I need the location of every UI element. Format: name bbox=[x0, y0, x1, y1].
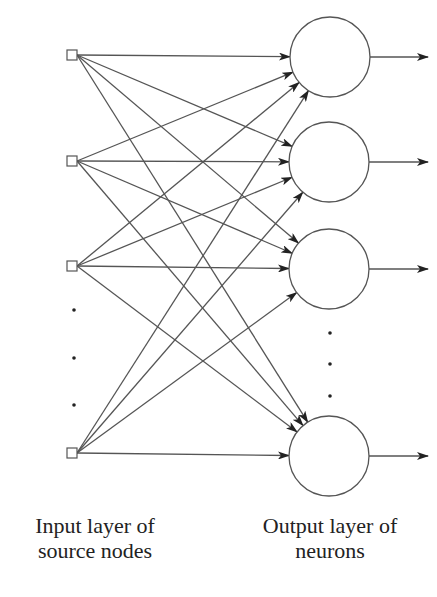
network-diagram bbox=[0, 0, 437, 597]
output-neuron bbox=[289, 416, 369, 496]
connection-edge bbox=[77, 161, 289, 162]
input-node bbox=[67, 448, 77, 458]
input-label-line1: Input layer of bbox=[20, 513, 170, 538]
connection-edge bbox=[77, 266, 297, 432]
connection-edge bbox=[77, 177, 292, 266]
connection-edge bbox=[77, 192, 303, 453]
nodes bbox=[67, 17, 370, 496]
output-neuron bbox=[289, 122, 369, 202]
ellipsis-dot bbox=[328, 362, 332, 366]
connection-edge bbox=[77, 55, 308, 422]
output-layer-label: Output layer of neurons bbox=[250, 513, 410, 563]
connection-edge bbox=[77, 72, 293, 161]
input-label-line2: source nodes bbox=[20, 538, 170, 563]
ellipsis-dots bbox=[72, 308, 332, 407]
input-layer-label: Input layer of source nodes bbox=[20, 513, 170, 563]
connection-edges bbox=[77, 55, 308, 456]
ellipsis-dot bbox=[328, 331, 332, 335]
connection-edge bbox=[77, 161, 303, 426]
connection-edge bbox=[77, 55, 290, 57]
connection-edge bbox=[77, 453, 289, 456]
connection-edge bbox=[77, 91, 308, 453]
output-label-line2: neurons bbox=[250, 538, 410, 563]
ellipsis-dot bbox=[72, 403, 76, 407]
connection-edge bbox=[77, 293, 297, 453]
output-arrows bbox=[369, 57, 428, 456]
output-label-line1: Output layer of bbox=[250, 513, 410, 538]
connection-edge bbox=[77, 266, 289, 269]
input-node bbox=[67, 156, 77, 166]
input-node bbox=[67, 261, 77, 271]
ellipsis-dot bbox=[72, 356, 76, 360]
connection-edge bbox=[77, 55, 292, 146]
ellipsis-dot bbox=[72, 308, 76, 312]
input-node bbox=[67, 50, 77, 60]
output-neuron bbox=[289, 229, 369, 309]
connection-edge bbox=[77, 82, 299, 266]
ellipsis-dot bbox=[328, 394, 332, 398]
output-neuron bbox=[290, 17, 370, 97]
